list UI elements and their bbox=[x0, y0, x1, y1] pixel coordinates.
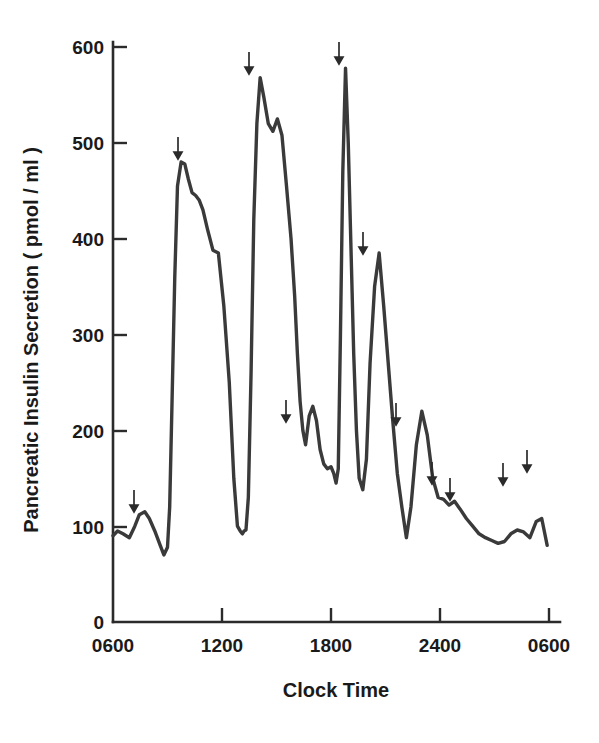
y-tick-label-600: 600 bbox=[72, 37, 104, 58]
y-ticks bbox=[113, 47, 127, 527]
y-tick-label-500: 500 bbox=[72, 133, 104, 154]
x-tick-label-1200: 1200 bbox=[201, 635, 243, 656]
y-tick-label-200: 200 bbox=[72, 421, 104, 442]
down-arrow-icon bbox=[245, 52, 253, 74]
x-tick-label-0600-end: 0600 bbox=[528, 635, 570, 656]
down-arrow-icon bbox=[359, 232, 367, 254]
down-arrow-icon bbox=[523, 450, 531, 472]
down-arrow-icon bbox=[130, 490, 138, 512]
down-arrow-icon bbox=[499, 463, 507, 485]
stimulus-arrow-markers bbox=[130, 42, 531, 512]
x-tick-label-1800: 1800 bbox=[310, 635, 352, 656]
down-arrow-icon bbox=[428, 462, 436, 484]
x-axis-title: Clock Time bbox=[283, 679, 389, 701]
down-arrow-icon bbox=[174, 137, 182, 159]
x-tick-label-0600-start: 0600 bbox=[92, 635, 134, 656]
y-tick-label-0: 0 bbox=[93, 612, 104, 633]
x-ticks bbox=[222, 608, 549, 622]
x-tick-labels: 0600 1200 1800 2400 0600 bbox=[92, 635, 570, 656]
insulin-secretion-line-chart: Pancreatic Insulin Secretion ( pmol / ml… bbox=[0, 0, 599, 743]
chart-page: Pancreatic Insulin Secretion ( pmol / ml… bbox=[0, 0, 599, 743]
down-arrow-icon bbox=[282, 400, 290, 422]
y-tick-label-100: 100 bbox=[72, 517, 104, 538]
y-tick-label-400: 400 bbox=[72, 229, 104, 250]
axes bbox=[113, 42, 560, 622]
x-tick-label-2400: 2400 bbox=[419, 635, 461, 656]
down-arrow-icon bbox=[335, 42, 343, 64]
down-arrow-icon bbox=[446, 478, 454, 500]
y-tick-labels: 600 500 400 300 200 100 0 bbox=[72, 37, 104, 633]
y-axis-title: Pancreatic Insulin Secretion ( pmol / ml… bbox=[20, 147, 42, 533]
y-tick-label-300: 300 bbox=[72, 325, 104, 346]
